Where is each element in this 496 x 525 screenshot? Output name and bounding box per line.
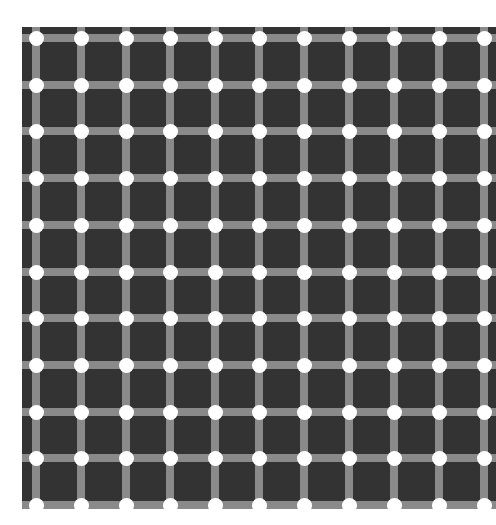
grid-intersection-dot	[342, 171, 357, 186]
grid-intersection-dot	[74, 265, 89, 280]
grid-intersection-dot	[477, 451, 492, 466]
grid-intersection-dot	[29, 78, 44, 93]
grid-intersection-dot	[163, 405, 178, 420]
grid-intersection-dot	[208, 498, 223, 510]
grid-intersection-dot	[29, 451, 44, 466]
grid-intersection-dot	[119, 31, 134, 46]
grid-intersection-dot	[297, 78, 312, 93]
grid-intersection-dot	[432, 218, 447, 233]
grid-intersection-dot	[163, 311, 178, 326]
grid-intersection-dot	[208, 31, 223, 46]
grid-intersection-dot	[208, 218, 223, 233]
grid-intersection-dot	[477, 218, 492, 233]
grid-intersection-dot	[297, 124, 312, 139]
grid-intersection-dot	[342, 498, 357, 510]
grid-intersection-dot	[342, 78, 357, 93]
grid-intersection-dot	[342, 218, 357, 233]
grid-intersection-dot	[432, 451, 447, 466]
grid-intersection-dot	[208, 311, 223, 326]
grid-intersection-dot	[29, 311, 44, 326]
grid-intersection-dot	[297, 171, 312, 186]
grid-intersection-dot	[387, 218, 402, 233]
grid-intersection-dot	[477, 265, 492, 280]
grid-intersection-dot	[208, 171, 223, 186]
grid-intersection-dot	[74, 171, 89, 186]
grid-intersection-dot	[297, 218, 312, 233]
grid-intersection-dot	[208, 405, 223, 420]
grid-intersection-dot	[252, 498, 267, 510]
grid-intersection-dot	[163, 358, 178, 373]
grid-intersection-dot	[252, 124, 267, 139]
grid-intersection-dot	[477, 405, 492, 420]
grid-intersection-dot	[208, 451, 223, 466]
grid-intersection-dot	[342, 451, 357, 466]
grid-intersection-dot	[119, 311, 134, 326]
grid-intersection-dot	[163, 498, 178, 510]
grid-intersection-dot	[74, 498, 89, 510]
grid-intersection-dot	[163, 124, 178, 139]
grid-intersection-dot	[119, 265, 134, 280]
grid-intersection-dot	[297, 265, 312, 280]
grid-intersection-dot	[432, 405, 447, 420]
grid-intersection-dot	[29, 265, 44, 280]
grid-intersection-dot	[119, 405, 134, 420]
grid-intersection-dot	[252, 405, 267, 420]
grid-intersection-dot	[119, 78, 134, 93]
grid-intersection-dot	[432, 171, 447, 186]
grid-intersection-dot	[477, 171, 492, 186]
grid-intersection-dot	[297, 451, 312, 466]
grid-intersection-dot	[252, 78, 267, 93]
grid-intersection-dot	[432, 498, 447, 510]
grid-intersection-dot	[29, 218, 44, 233]
grid-intersection-dot	[163, 218, 178, 233]
grid-intersection-dot	[119, 218, 134, 233]
grid-intersection-dot	[477, 311, 492, 326]
grid-intersection-dot	[387, 405, 402, 420]
grid-intersection-dot	[477, 31, 492, 46]
grid-intersection-dot	[432, 31, 447, 46]
grid-intersection-dot	[119, 451, 134, 466]
grid-intersection-dot	[477, 358, 492, 373]
grid-intersection-dot	[432, 265, 447, 280]
grid-intersection-dot	[163, 31, 178, 46]
grid-intersection-dot	[252, 171, 267, 186]
grid-intersection-dot	[387, 78, 402, 93]
grid-intersection-dot	[252, 265, 267, 280]
grid-intersection-dot	[163, 78, 178, 93]
grid-intersection-dot	[74, 218, 89, 233]
grid-intersection-dot	[387, 124, 402, 139]
grid-intersection-dot	[29, 358, 44, 373]
grid-intersection-dot	[342, 311, 357, 326]
grid-intersection-dot	[252, 31, 267, 46]
scintillating-grid	[22, 27, 496, 509]
grid-intersection-dot	[342, 31, 357, 46]
grid-intersection-dot	[29, 171, 44, 186]
grid-intersection-dot	[297, 498, 312, 510]
grid-intersection-dot	[74, 124, 89, 139]
grid-intersection-dot	[29, 124, 44, 139]
grid-intersection-dot	[342, 358, 357, 373]
grid-intersection-dot	[29, 31, 44, 46]
grid-intersection-dot	[342, 405, 357, 420]
grid-intersection-dot	[342, 124, 357, 139]
grid-intersection-dot	[432, 78, 447, 93]
grid-intersection-dot	[29, 498, 44, 510]
grid-intersection-dot	[208, 265, 223, 280]
grid-intersection-dot	[208, 78, 223, 93]
grid-intersection-dot	[74, 451, 89, 466]
grid-intersection-dot	[297, 311, 312, 326]
grid-intersection-dot	[119, 171, 134, 186]
grid-intersection-dot	[252, 451, 267, 466]
grid-intersection-dot	[119, 124, 134, 139]
grid-intersection-dot	[74, 311, 89, 326]
grid-intersection-dot	[387, 311, 402, 326]
grid-intersection-dot	[342, 265, 357, 280]
grid-intersection-dot	[252, 358, 267, 373]
grid-intersection-dot	[387, 358, 402, 373]
grid-intersection-dot	[252, 218, 267, 233]
grid-intersection-dot	[163, 265, 178, 280]
grid-intersection-dot	[432, 311, 447, 326]
grid-intersection-dot	[297, 31, 312, 46]
grid-intersection-dot	[119, 358, 134, 373]
grid-intersection-dot	[387, 498, 402, 510]
